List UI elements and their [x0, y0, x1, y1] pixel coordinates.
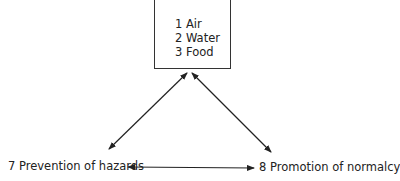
- right-node-label: 8 Promotion of normalcy: [259, 160, 400, 174]
- arrow-box-to-right: [192, 73, 271, 152]
- arrow-box-to-left: [109, 73, 187, 149]
- left-node-label: 7 Prevention of hazards: [8, 159, 144, 173]
- arrow-left-to-right: [128, 167, 254, 168]
